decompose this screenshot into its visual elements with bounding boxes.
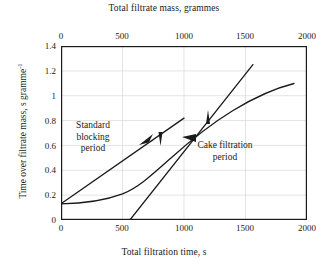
annotation-standard-line-3: period	[62, 143, 124, 155]
arrow-to-standard-tangent-icon	[139, 134, 154, 145]
y-axis-label: Time over filtrate mass, s gramme-1	[16, 41, 28, 221]
y-axis-label-superscript: -1	[16, 63, 23, 68]
arrow-up-to-curve-icon	[206, 110, 210, 124]
chart-figure: Total filtrate mass, grammes Time over f…	[0, 0, 328, 270]
ytick-0.2: 0.2	[36, 190, 56, 200]
bottom-axis-title: Total filtration time, s	[0, 247, 328, 257]
top-axis-title: Total filtrate mass, grammes	[0, 3, 328, 13]
annotation-standard-line-2: blocking	[62, 132, 124, 144]
y-axis-label-text: Time over filtrate mass, s gramme	[18, 69, 28, 199]
xtick-bottom-1000: 1000	[175, 223, 193, 233]
xtick-bottom-2000: 2000	[298, 223, 316, 233]
ytick-1.4: 1.4	[36, 41, 56, 51]
xtick-top-2000: 2000	[298, 31, 316, 41]
arrow-down-to-curve-icon	[159, 132, 163, 146]
ytick-1: 1	[36, 91, 56, 101]
annotation-cake-line-2: period	[176, 152, 274, 164]
xtick-bottom-500: 500	[115, 223, 129, 233]
ytick-0.4: 0.4	[36, 165, 56, 175]
xtick-top-0: 0	[59, 31, 64, 41]
ytick-1.2: 1.2	[36, 66, 56, 76]
ytick-0.6: 0.6	[36, 141, 56, 151]
annotation-cake-line-1: Cake filtration	[176, 140, 274, 152]
annotation-cake-filtration-period: Cake filtration period	[176, 140, 274, 163]
xtick-top-1000: 1000	[175, 31, 193, 41]
annotation-standard-blocking-period: Standard blocking period	[62, 120, 124, 155]
xtick-bottom-1500: 1500	[236, 223, 254, 233]
ytick-0.8: 0.8	[36, 116, 56, 126]
annotation-standard-line-1: Standard	[62, 120, 124, 132]
xtick-bottom-0: 0	[59, 223, 64, 233]
xtick-top-1500: 1500	[236, 31, 254, 41]
xtick-top-500: 500	[115, 31, 129, 41]
ytick-0: 0	[36, 215, 56, 225]
